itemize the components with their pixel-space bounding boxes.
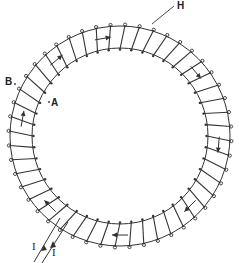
winding-turn	[164, 43, 180, 61]
winding-loop	[24, 74, 27, 77]
winding-turn	[131, 27, 139, 50]
winding-dot	[187, 82, 189, 84]
winding-turn	[195, 85, 218, 93]
winding-dot	[96, 51, 98, 53]
winding-dot	[130, 221, 132, 223]
winding-turn	[173, 205, 184, 227]
winding-turn	[14, 102, 36, 113]
winding-turn	[20, 89, 40, 103]
winding-dot	[108, 49, 110, 51]
winding-turn	[200, 98, 224, 102]
winding-loop	[204, 206, 207, 209]
winding-turn	[12, 159, 36, 160]
winding-dot	[86, 215, 88, 217]
winding-dot	[199, 168, 201, 170]
winding-turn	[29, 189, 51, 200]
winding-dot	[119, 221, 121, 223]
winding-turn	[153, 36, 167, 56]
winding-dot	[58, 196, 60, 198]
outer-ring	[10, 26, 230, 246]
winding-dot	[32, 135, 34, 137]
winding-turn	[129, 222, 131, 246]
a-point	[48, 101, 50, 103]
winding-dot	[66, 203, 68, 205]
winding-loop	[179, 40, 182, 43]
winding-turn	[35, 64, 51, 83]
winding-dot	[108, 221, 110, 223]
winding-dot	[35, 157, 37, 159]
winding-turn	[86, 220, 97, 242]
winding-dot	[202, 157, 204, 159]
winding-dot	[171, 203, 173, 205]
winding-turn	[195, 180, 213, 196]
winding-loop	[36, 210, 39, 213]
winding-turn	[143, 30, 154, 52]
winding-turn	[204, 159, 226, 170]
b-point	[14, 83, 16, 85]
winding-dot	[141, 51, 143, 53]
winding-loop	[55, 43, 58, 46]
winding-turn	[69, 37, 77, 60]
winding-turn	[100, 222, 108, 245]
winding-loop	[27, 198, 30, 201]
winding-turn	[82, 32, 86, 56]
winding-dot	[35, 112, 37, 114]
winding-dot	[50, 187, 52, 189]
winding-turn	[27, 76, 45, 92]
winding-dot	[205, 135, 207, 137]
winding-dot	[66, 66, 68, 68]
winding-turn	[60, 211, 76, 229]
winding-dot	[152, 55, 154, 57]
winding-turn	[73, 216, 87, 236]
winding-turn	[9, 145, 33, 147]
winding-dot	[141, 218, 143, 220]
winding-turn	[21, 180, 44, 188]
winding-turn	[200, 169, 220, 183]
winding-dot	[39, 102, 41, 104]
label-current-out: I	[52, 246, 56, 258]
winding-loop	[194, 217, 197, 220]
winding-turn	[16, 169, 40, 173]
winding-dot	[162, 60, 164, 62]
winding-dot	[76, 210, 78, 212]
arrow-head-icon	[112, 233, 117, 238]
winding-dot	[187, 187, 189, 189]
winding-dot	[39, 168, 41, 170]
winding-dot	[171, 66, 173, 68]
arrow-head-icon	[21, 111, 26, 116]
winding-dot	[202, 112, 204, 114]
winding-loop	[58, 228, 61, 231]
winding-dot	[44, 178, 46, 180]
toroid-diagram	[0, 0, 239, 263]
winding-turn	[143, 220, 144, 244]
winding-dot	[205, 124, 207, 126]
winding-dot	[199, 102, 201, 104]
winding-loop	[47, 220, 50, 223]
winding-loop	[201, 59, 204, 62]
winding-dot	[152, 215, 154, 217]
winding-loop	[212, 195, 215, 198]
winding-turn	[173, 51, 192, 67]
winding-dot	[130, 49, 132, 51]
winding-dot	[162, 210, 164, 212]
winding-dot	[205, 146, 207, 148]
winding-turn	[204, 112, 228, 113]
winding-turn	[9, 131, 33, 136]
winding-dot	[96, 218, 98, 220]
winding-dot	[76, 60, 78, 62]
winding-turn	[164, 211, 172, 234]
winding-dot	[33, 124, 35, 126]
winding-dot	[86, 55, 88, 57]
label-h: H	[177, 0, 184, 11]
label-a: A	[51, 97, 58, 108]
label-b: B	[5, 76, 12, 87]
winding-dot	[194, 178, 196, 180]
winding-dot	[33, 146, 35, 148]
label-current-in: I	[32, 240, 36, 252]
winding-turn	[153, 216, 157, 240]
winding-dot	[180, 196, 182, 198]
winding-loop	[182, 226, 185, 229]
winding-dot	[119, 48, 121, 50]
winding-dot	[44, 92, 46, 94]
winding-dot	[194, 92, 196, 94]
